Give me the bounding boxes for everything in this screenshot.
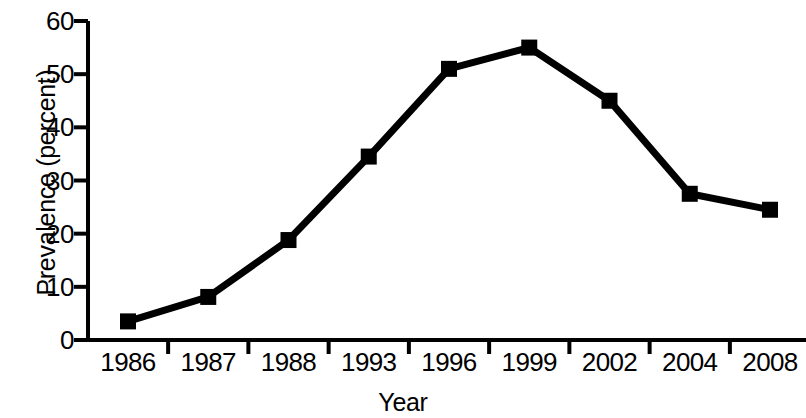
data-line (128, 48, 770, 322)
data-point-marker (120, 313, 136, 329)
data-point-marker (762, 202, 778, 218)
data-point-marker (682, 186, 698, 202)
x-axis-tick-label: 2004 (645, 348, 735, 376)
prevalence-line-chart: Prevalence (percent) 0102030405060 19861… (0, 0, 806, 418)
data-point-marker (602, 93, 618, 109)
x-axis-tick-label: 1993 (324, 348, 414, 376)
x-axis-tick-label: 1987 (163, 348, 253, 376)
data-point-marker (361, 149, 377, 165)
data-point-marker (200, 289, 216, 305)
x-axis-title: Year (0, 388, 806, 417)
data-point-marker (281, 232, 297, 248)
x-axis-tick-label: 1999 (484, 348, 574, 376)
data-point-marker (521, 40, 537, 56)
x-axis-tick-label: 1988 (244, 348, 334, 376)
x-axis-tick-label: 2008 (725, 348, 806, 376)
x-axis-tick-label: 1986 (83, 348, 173, 376)
x-axis-tick-label: 2002 (565, 348, 655, 376)
data-point-marker (441, 61, 457, 77)
y-axis-ticks (74, 21, 88, 340)
x-axis-tick-label: 1996 (404, 348, 494, 376)
